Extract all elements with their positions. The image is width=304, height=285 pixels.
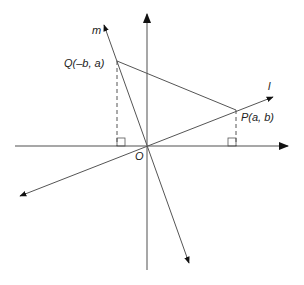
diagram-canvas: m l O Q(–b, a) P(a, b) — [0, 0, 304, 285]
label-l: l — [268, 80, 271, 92]
right-angle-marker-p — [228, 138, 236, 146]
segment-pq — [117, 61, 236, 110]
label-p: P(a, b) — [241, 111, 274, 123]
label-m: m — [92, 24, 101, 36]
right-angle-marker-q — [117, 138, 125, 146]
label-q: Q(–b, a) — [64, 57, 105, 69]
label-origin: O — [135, 150, 144, 162]
